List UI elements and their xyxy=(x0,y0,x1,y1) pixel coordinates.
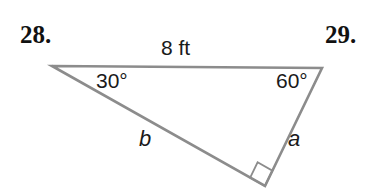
side-variable-label-b: b xyxy=(139,128,151,150)
side-length-label-top: 8 ft xyxy=(161,37,190,58)
triangle-drawing xyxy=(0,0,367,190)
side-variable-label-a: a xyxy=(288,128,300,150)
angle-label-right: 60° xyxy=(276,70,308,91)
angle-label-left: 30° xyxy=(96,70,128,91)
geometry-figure: 28. 29. 8 ft 30° 60° b a xyxy=(0,0,367,190)
